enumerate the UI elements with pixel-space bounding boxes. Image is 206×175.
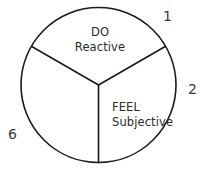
segment-subtitle-feel: Subjective (112, 115, 188, 130)
segment-label-do: DO Reactive (56, 25, 144, 55)
segment-label-feel: FEEL Subjective (112, 100, 188, 130)
segment-title-feel: FEEL (112, 100, 188, 115)
callout-number-6: 6 (8, 127, 17, 141)
diagram-canvas: DO Reactive FEEL Subjective 1 2 6 (0, 0, 206, 175)
callout-number-2: 2 (188, 82, 197, 96)
callout-number-1: 1 (163, 9, 172, 23)
segment-subtitle-do: Reactive (56, 40, 144, 55)
segment-title-do: DO (56, 25, 144, 40)
